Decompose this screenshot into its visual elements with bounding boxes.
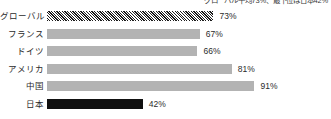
category-label-germany: ドイツ xyxy=(0,46,44,56)
bar-usa xyxy=(47,64,232,74)
bar-china xyxy=(47,81,254,91)
category-label-france: フランス xyxy=(0,29,44,39)
bar-row: アメリカ 81% xyxy=(0,64,331,82)
bar-track: 67% xyxy=(47,29,331,39)
bar-value-france: 67% xyxy=(206,29,223,39)
category-label-usa: アメリカ xyxy=(0,64,44,74)
category-label-japan: 日本 xyxy=(0,99,44,109)
bar-track: 91% xyxy=(47,81,331,91)
bar-global xyxy=(47,11,213,21)
bar-germany xyxy=(47,46,197,56)
bar-france xyxy=(47,29,200,39)
bar-track: 66% xyxy=(47,46,331,56)
bar-track: 81% xyxy=(47,64,331,74)
bar-value-usa: 81% xyxy=(238,64,255,74)
bar-row: グローバル 73% xyxy=(0,11,331,29)
category-label-china: 中国 xyxy=(0,81,44,91)
bar-value-japan: 42% xyxy=(149,99,166,109)
bar-row: 日本 42% xyxy=(0,99,331,117)
bar-track: 73% xyxy=(47,11,331,21)
chart-caption: グローバル平均73%、最下位は日本42% xyxy=(204,0,328,5)
bar-row: 中国 91% xyxy=(0,81,331,99)
bar-japan xyxy=(47,99,143,109)
bar-row: フランス 67% xyxy=(0,29,331,47)
bar-track: 42% xyxy=(47,99,331,109)
bar-value-global: 73% xyxy=(219,11,236,21)
bar-value-china: 91% xyxy=(260,81,277,91)
bar-value-germany: 66% xyxy=(203,46,220,56)
category-label-global: グローバル xyxy=(0,11,44,21)
chart-rows: グローバル 73% フランス 67% ドイツ 66% アメリカ xyxy=(0,11,331,116)
horizontal-bar-chart: グローバル平均73%、最下位は日本42% グローバル 73% フランス 67% … xyxy=(0,0,331,119)
bar-row: ドイツ 66% xyxy=(0,46,331,64)
